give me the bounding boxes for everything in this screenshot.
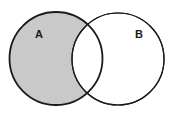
set-b-label: B bbox=[135, 28, 143, 40]
venn-diagram-canvas: A B bbox=[0, 0, 179, 117]
venn-diagram-figure: A B bbox=[0, 0, 179, 117]
region-a-only-shading bbox=[0, 0, 179, 117]
set-a-label: A bbox=[35, 28, 43, 40]
